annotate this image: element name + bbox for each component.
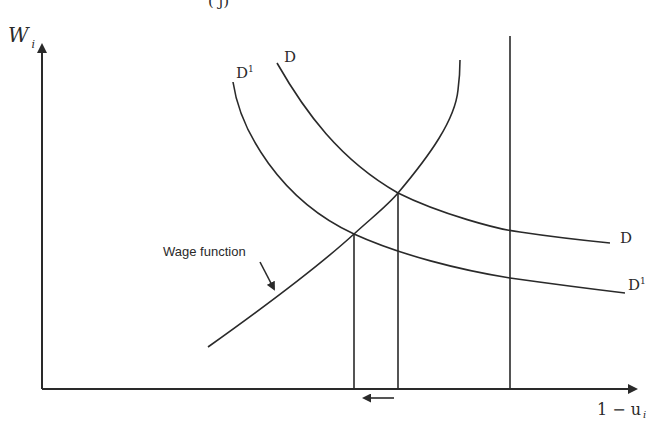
d1-end-label-sup: 1 (640, 276, 646, 286)
d1-label-sup: 1 (248, 64, 254, 74)
demand-curve-d (277, 63, 610, 243)
demand-curve-d-label-end: D (620, 229, 632, 247)
wage-function-pointer-arrow (260, 262, 274, 289)
clipped-header-text: ( j) (208, 0, 229, 10)
demand-curve-d1-label-end: D1 (628, 276, 646, 294)
x-axis-label-main: 1 − u (597, 400, 641, 419)
demand-curve-d1 (233, 82, 625, 293)
d1-label-main: D (236, 64, 248, 82)
demand-curve-d1-label-top: D1 (236, 64, 254, 82)
wage-curve-diagram: ( j) Wi 1 − ui D D D1 D1 Wage function (0, 0, 664, 423)
x-axis-label-sub: i (643, 409, 646, 420)
y-axis-label: Wi (8, 23, 35, 51)
d1-end-label-main: D (628, 276, 640, 294)
wage-function-label: Wage function (163, 244, 246, 259)
x-axis-label: 1 − ui (597, 400, 646, 420)
demand-curve-d-label-top: D (284, 48, 296, 66)
y-axis-label-main: W (8, 23, 30, 47)
y-axis-label-sub: i (32, 38, 36, 51)
